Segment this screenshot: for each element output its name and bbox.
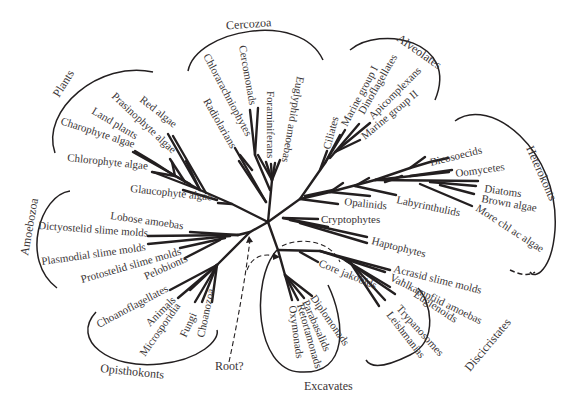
group-label-discicristates: Discicristates	[462, 315, 514, 374]
taxon-oomycetes: Oomycetes	[455, 160, 506, 179]
group-label-excavates: Excavates	[304, 379, 353, 393]
group-label-plants: Plants	[50, 67, 78, 100]
root-dashed-line	[229, 240, 250, 362]
taxon-cercomonads: Cercomonads	[237, 44, 259, 106]
root-arrowhead	[246, 236, 253, 243]
root-label: Root?	[215, 359, 244, 373]
taxon-opalinids: Opalinids	[344, 195, 388, 211]
amoebozoa-bracket	[37, 191, 70, 288]
taxon-foraminiferans: Foraminiferans	[265, 91, 277, 158]
group-label-heterokonts: Heterokonts	[523, 144, 560, 204]
group-label-alveolates: Alveolates	[394, 31, 444, 72]
taxon-euglyphid-amoebas: Euglyphid amoebas	[280, 76, 307, 164]
taxon-haptophytes: Haptophytes	[371, 234, 428, 259]
taxon-cryptophytes: Cryptophytes	[321, 213, 380, 225]
phylogenetic-tree: Cercozoa Alveolates Heterokonts Plants A…	[0, 0, 572, 406]
taxon-choanozoa: Choanozoa	[194, 287, 216, 338]
taxa-labels: Red algae Prasinophyte algae Land plants…	[38, 44, 547, 369]
taxon-ciliates: Ciliates	[320, 115, 340, 151]
